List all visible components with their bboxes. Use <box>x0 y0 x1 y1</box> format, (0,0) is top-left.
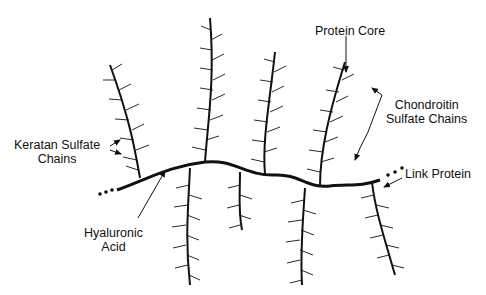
label-chondroitin-line1: Chondroitin <box>386 98 467 112</box>
label-keratan-line1: Keratan Sulfate <box>14 138 100 152</box>
annotation-arrows <box>110 36 402 218</box>
label-hyaluronic-line2: Acid <box>84 240 143 254</box>
label-hyaluronic-acid: Hyaluronic Acid <box>84 226 143 254</box>
label-chondroitin-sulfate-chains: Chondroitin Sulfate Chains <box>386 98 467 126</box>
label-chondroitin-line2: Sulfate Chains <box>386 112 467 126</box>
label-keratan-sulfate-chains: Keratan Sulfate Chains <box>14 138 100 166</box>
hyaluronic-acid-backbone <box>98 162 404 196</box>
label-keratan-line2: Chains <box>14 152 100 166</box>
label-link-protein: Link Protein <box>405 167 471 181</box>
label-hyaluronic-line1: Hyaluronic <box>84 226 143 240</box>
label-protein-core: Protein Core <box>315 24 385 38</box>
